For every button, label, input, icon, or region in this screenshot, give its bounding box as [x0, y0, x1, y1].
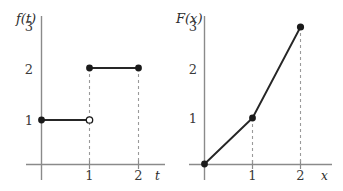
- left-xtick-label-2: 2: [134, 168, 142, 183]
- right-point-0-0: [201, 161, 208, 168]
- left-ytick-label-1: 1: [25, 113, 33, 128]
- right-point-1-1: [249, 115, 256, 122]
- left-point-1-2: [86, 65, 93, 72]
- right-ytick-label-2: 2: [189, 62, 197, 77]
- right-xtick-label-1: 1: [248, 168, 256, 183]
- left-plot-group: f(t) t 3 2 1 1 2: [15, 11, 165, 183]
- right-point-2-3: [297, 23, 304, 30]
- left-open-point-1-1: [86, 117, 92, 123]
- left-ytick-label-3: 3: [25, 19, 33, 34]
- right-ytick-label-1: 1: [189, 111, 197, 126]
- figure-canvas: f(t) t 3 2 1 1 2: [0, 0, 343, 191]
- right-plot-group: F(x) x 3 2 1 1 2: [175, 11, 332, 183]
- right-xtick-label-2: 2: [296, 168, 304, 183]
- left-xtick-label-1: 1: [85, 168, 93, 183]
- math-figure-two-plots: f(t) t 3 2 1 1 2: [0, 0, 343, 191]
- right-x-axis-label: x: [321, 169, 328, 183]
- left-point-0-1: [38, 117, 45, 124]
- left-point-2-2: [135, 65, 142, 72]
- left-ytick-label-2: 2: [25, 62, 33, 77]
- right-ytick-label-3: 3: [189, 19, 197, 34]
- left-x-axis-label: t: [155, 169, 160, 183]
